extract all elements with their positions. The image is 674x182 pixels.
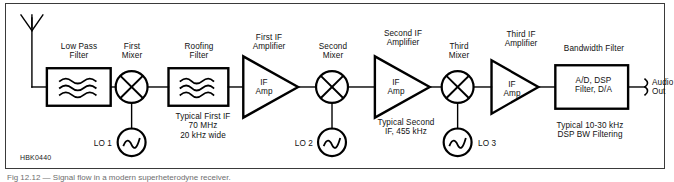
second-if-amplifier-inner-label: IF Amp (380, 78, 412, 97)
bandwidth-filter-inner-label: A/D, DSP Filter, D/A (560, 76, 627, 95)
second-mixer-label: Second Mixer (303, 42, 363, 61)
lo1-oscillator-symbol (118, 128, 146, 156)
figure-caption: Fig 12.12 — Signal flow in a modern supe… (7, 173, 647, 182)
third-if-amplifier-inner-label: IF Amp (497, 80, 527, 99)
lo2-label: LO 2 (281, 139, 313, 148)
third-mixer-symbol (442, 71, 474, 103)
roofing-filter-label: Roofing Filter (169, 42, 229, 61)
first-if-annotation: Typical First IF 70 MHz 20 kHz wide (155, 112, 251, 140)
lo2-oscillator-symbol (318, 128, 346, 156)
first-if-amplifier-inner-label: IF Amp (248, 78, 280, 97)
figure-id-label: HBK0440 (20, 154, 51, 161)
bandwidth-filter-label: Bandwidth Filter (547, 44, 641, 53)
third-mixer-label: Third Mixer (430, 42, 488, 61)
low-pass-filter-symbol (47, 68, 111, 106)
roofing-filter-symbol (169, 68, 229, 106)
audio-out-label: Audio Out (652, 78, 674, 97)
second-if-annotation: Typical Second IF, 455 kHz (364, 118, 448, 137)
first-mixer-symbol (116, 71, 148, 103)
diagram-frame: Low Pass Filter First Mixer Roofing Filt… (5, 3, 665, 169)
first-if-amplifier-label: First IF Amplifier (232, 33, 306, 52)
second-mixer-symbol (316, 71, 348, 103)
dsp-bandwidth-annotation: Typical 10-30 kHz DSP BW Filtering (534, 121, 646, 140)
audio-out-jack-icon (645, 79, 647, 95)
antenna-icon (21, 15, 43, 87)
lo3-label: LO 3 (478, 139, 510, 148)
figure-root: Low Pass Filter First Mixer Roofing Filt… (0, 0, 674, 182)
lo1-label: LO 1 (80, 139, 112, 148)
first-mixer-label: First Mixer (102, 42, 162, 61)
